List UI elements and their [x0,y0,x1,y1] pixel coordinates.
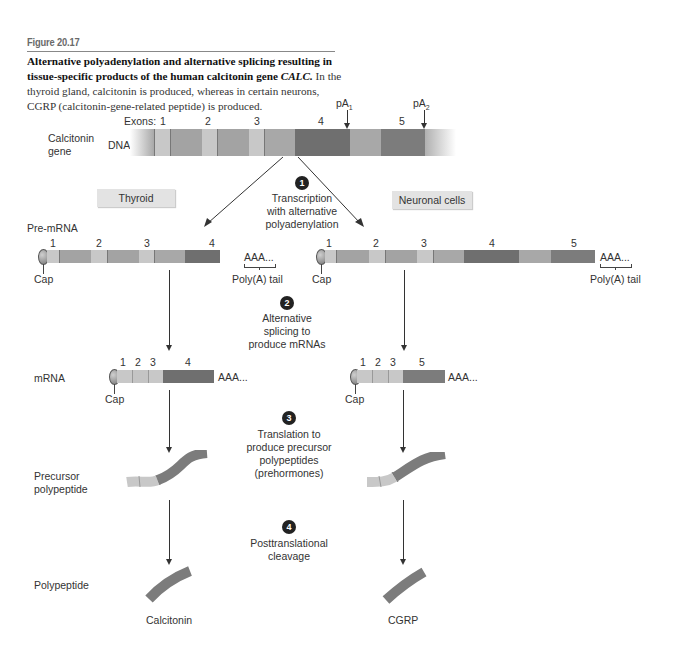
exon-4 [163,370,214,383]
dna-intron [217,129,250,156]
mrna-left-exon-number: 3 [150,356,156,368]
dna-exon-number: 2 [205,115,211,127]
mrna-right-exon-number: 2 [375,356,381,368]
exon-1 [325,250,336,263]
polypeptide-label: Polypeptide [34,579,89,591]
dna-exon-number: 5 [399,115,405,127]
dna-exon-1 [154,129,171,156]
pre-mrna-right-exon-number: 3 [421,237,427,249]
pre-mrna-right-exon-number: 4 [489,237,495,249]
exon-5 [403,370,445,383]
calcitonin-polypeptide [145,565,195,605]
thyroid-tag: Thyroid [97,189,175,207]
exon-3 [148,370,164,383]
gene-label-line2: gene [48,145,94,158]
dna-exon-number: 1 [160,115,166,127]
figure-caption: Alternative polyadenylation and alternat… [27,54,342,114]
poly-a-tail-label: Poly(A) tail [232,273,283,285]
step-4-text: Posttranslationalcleavage [229,537,349,563]
dna-exon-5 [381,129,425,156]
arrow-line [169,500,170,560]
intron [59,250,92,263]
step-1-badge: 1 [295,176,309,190]
exon-3 [417,250,433,263]
arrow-line [169,390,170,448]
arrow-line [169,270,170,346]
pre-mrna-right-exon-number: 5 [571,237,577,249]
arrow-down-icon [401,345,407,351]
dna-label: DNA [108,139,130,151]
exon-3 [139,250,154,263]
calcitonin-gene-label: Calcitonin gene [48,132,94,158]
mrna-right-exon-number: 5 [419,356,425,368]
cap-label: Cap [105,393,124,405]
arrow-line [403,390,404,448]
dna-flank-right [425,129,456,156]
neuronal-cells-tag: Neuronal cells [392,191,472,209]
mrna-left-exon-number: 2 [135,356,141,368]
calcitonin-label: Calcitonin [146,614,192,626]
precursor-polypeptide-left [125,450,210,500]
mrna-right-bar [357,370,445,383]
intron [107,250,140,263]
exon-2 [91,250,107,263]
pre-mrna-left-exon-number: 1 [50,237,56,249]
step-4-badge: 4 [282,520,296,534]
dna-exon-number: 3 [254,115,260,127]
step-2-badge: 2 [280,296,294,310]
poly-a-tail-label: Poly(A) tail [590,273,641,285]
mrna-left-bar [117,370,214,383]
intron [519,250,551,263]
exon-1 [117,370,132,383]
cap-label: Cap [34,273,53,285]
arrow-line [404,270,405,346]
dna-intron [264,129,296,156]
polya-2-arrow-line [424,110,425,124]
exon-4 [185,250,220,263]
arrow-down-icon [400,559,406,565]
exons-label: Exons: [124,115,156,127]
pre-mrna-left-exon-number: 4 [209,237,215,249]
gene-label-line1: Calcitonin [48,132,94,145]
dna-exon-4 [295,129,350,156]
poly-a-tail: AAA... [448,371,478,383]
exon-3 [388,370,404,383]
arrow-down-icon [166,345,172,351]
poly-a-bracket [600,264,632,268]
poly-a-tail: AAA... [600,251,630,263]
poly-a-tail: AAA... [244,251,274,263]
step-1-text: Transcriptionwith alternativepolyadenyla… [247,192,357,231]
dna-exon-2 [202,129,217,156]
mrna-right-exon-number: 1 [360,356,366,368]
bracket-tick [259,267,260,270]
cap-label: Cap [345,393,364,405]
exon-2 [369,250,385,263]
intron [154,250,186,263]
polya-site-1-label: pA1 [336,97,353,111]
pre-mrna-right-exon-number: 1 [326,237,332,249]
pre-mrna-right-bar [325,250,595,263]
pre-mrna-left-bar [47,250,220,263]
figure-divider [27,51,335,52]
dna-exon-3 [249,129,264,156]
intron [336,250,370,263]
pre-mrna-left-exon-number: 2 [96,237,102,249]
polya-1-arrow-line [347,110,348,124]
dna-bar [130,129,456,156]
figure-label: Figure 20.17 [27,36,80,48]
exon-1 [47,250,59,263]
cgrp-polypeptide [382,566,432,606]
dna-flank-left [130,129,154,156]
poly-a-bracket [244,264,276,268]
dna-exon-number: 4 [318,115,324,127]
exon-2 [372,370,389,383]
arrow-line [403,500,404,560]
exon-5 [551,250,595,263]
mrna-label: mRNA [34,372,65,384]
caption-gene: CALC. [281,70,313,82]
poly-a-tail: AAA... [218,371,248,383]
pre-mrna-label: Pre-mRNA [27,222,78,234]
dna-intron [350,129,381,156]
mrna-left-exon-number: 1 [120,356,126,368]
pre-mrna-left-exon-number: 3 [144,237,150,249]
